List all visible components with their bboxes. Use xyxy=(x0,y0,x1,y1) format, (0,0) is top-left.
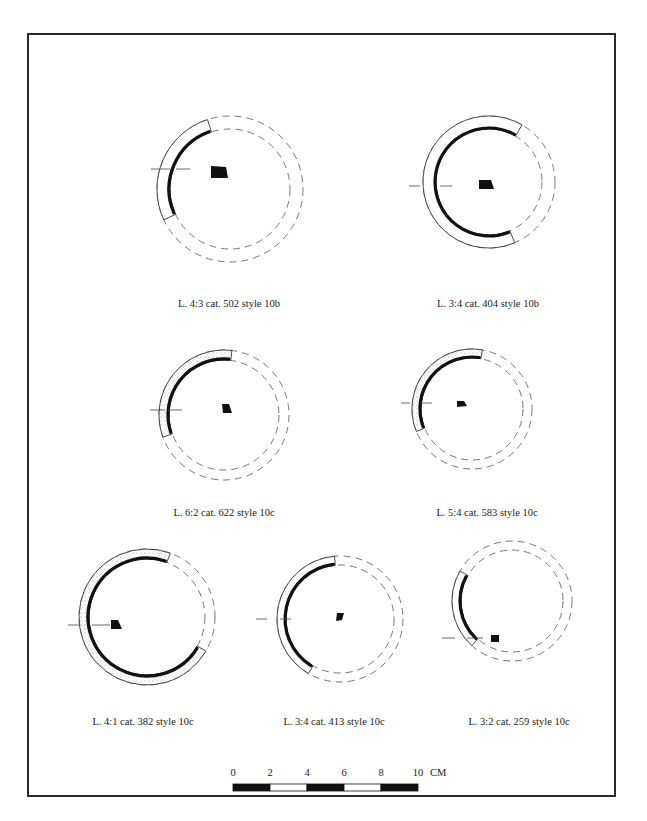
figure-caption: L. 6:2 cat. 622 style 10c xyxy=(173,507,274,518)
cross-section-profile xyxy=(111,620,122,629)
scale-bar xyxy=(233,784,418,791)
scale-tick-label: 4 xyxy=(304,767,309,778)
scale-tick-label: 8 xyxy=(378,767,383,778)
ring-fragment-figure xyxy=(442,541,572,661)
figure-caption: L. 3:4 cat. 404 style 10b xyxy=(437,298,539,309)
reconstructed-inner-circle xyxy=(169,360,279,470)
ring-fragment-figure xyxy=(401,349,532,469)
cross-section-profile xyxy=(491,635,499,642)
figure-caption: L. 4:3 cat. 502 style 10b xyxy=(178,298,280,309)
scale-segment xyxy=(307,784,344,791)
scale-tick-label: 10 xyxy=(413,767,424,778)
scale-tick-label: 6 xyxy=(341,767,346,778)
scale-segment xyxy=(344,784,381,791)
cross-section-profile xyxy=(211,166,228,178)
preserved-fragment xyxy=(423,116,522,248)
ring-fragment-figure xyxy=(151,116,303,262)
ring-fragment-figure xyxy=(409,116,555,248)
inner-edge-profile xyxy=(88,558,197,676)
cross-section-profile xyxy=(336,613,344,621)
figure-caption: L. 3:2 cat. 259 style 10c xyxy=(468,716,569,727)
reconstructed-inner-circle xyxy=(89,559,205,675)
cross-section-profile xyxy=(457,401,467,407)
scale-segment xyxy=(233,784,270,791)
figure-caption: L. 4:1 cat. 382 style 10c xyxy=(92,716,193,727)
figure-caption: L. 3:4 cat. 413 style 10c xyxy=(283,716,384,727)
scale-tick-label: 0 xyxy=(230,767,235,778)
cross-section-profile xyxy=(479,180,494,189)
ring-fragment-figure xyxy=(68,549,215,685)
ring-fragment-figure xyxy=(150,350,289,480)
scale-tick-label: 2 xyxy=(267,767,272,778)
cross-section-profile xyxy=(222,404,232,413)
scale-segment xyxy=(381,784,418,791)
figure-caption: L. 5:4 cat. 583 style 10c xyxy=(436,507,537,518)
plate-illustration xyxy=(0,0,647,821)
preserved-fragment xyxy=(79,549,206,685)
figures-layer xyxy=(68,116,572,685)
scale-segment xyxy=(270,784,307,791)
scale-unit-label: CM xyxy=(430,767,446,778)
ring-fragment-figure xyxy=(256,556,403,682)
reconstructed-inner-circle xyxy=(170,129,290,249)
